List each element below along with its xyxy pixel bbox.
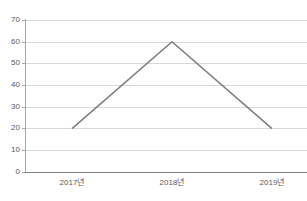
line-chart: 70 60 50 40 30 20 10 0 2017년 2018년 2019년 bbox=[0, 0, 307, 201]
series-line-0 bbox=[72, 42, 272, 129]
x-tick-label-2017: 2017년 bbox=[52, 178, 92, 187]
x-tick-label-2019: 2019년 bbox=[252, 178, 292, 187]
series-layer bbox=[0, 0, 307, 201]
x-tick-label-2018: 2018년 bbox=[152, 178, 192, 187]
